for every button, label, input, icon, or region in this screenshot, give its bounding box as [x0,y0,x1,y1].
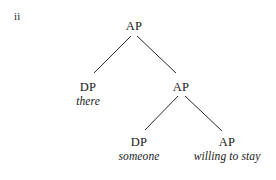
tree-node-root: AP [126,20,143,33]
node-terminal-word: someone [119,150,160,163]
node-category-label: AP [194,136,261,149]
edge-ap-inner-to-dp-someone [145,96,178,130]
tree-node-ap-inner: AP [173,81,190,94]
node-category-label: AP [126,20,143,33]
node-terminal-word: willing to stay [194,150,261,163]
node-category-label: DP [119,136,160,149]
edge-root-to-ap-inner [137,36,176,73]
tree-node-dp-someone: DP someone [119,136,160,163]
edge-ap-inner-to-ap-willing [185,96,222,131]
edge-root-to-dp-there [94,36,131,73]
node-category-label: AP [173,81,190,94]
tree-node-dp-there: DP there [76,81,100,108]
node-terminal-word: there [76,95,100,108]
example-number-label: ii [14,11,21,22]
syntax-tree-figure: ii AP DP there AP DP someone AP willing … [0,0,276,180]
tree-node-ap-willing: AP willing to stay [194,136,261,163]
node-category-label: DP [76,81,100,94]
